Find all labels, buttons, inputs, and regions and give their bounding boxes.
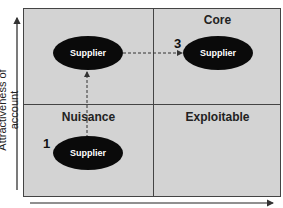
- y-axis-label: Attractiveness of account: [0, 50, 20, 170]
- node-number-3: 3: [174, 36, 181, 51]
- supplier-node-2: Supplier: [53, 36, 123, 70]
- supplier-node-3: Supplier: [183, 36, 253, 70]
- supplier-node-1: Supplier: [53, 136, 123, 170]
- node-number-1: 1: [43, 136, 50, 151]
- connectors-and-axes: [0, 0, 283, 208]
